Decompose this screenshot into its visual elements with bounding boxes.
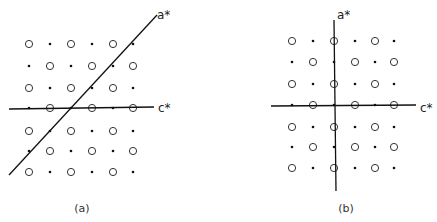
open-circle-spot (371, 80, 378, 87)
dot-spot (91, 171, 94, 174)
dot-spot (393, 83, 396, 86)
dot-spot (91, 43, 94, 46)
open-circle-spot (25, 127, 32, 134)
dot-spot (393, 126, 396, 129)
dot-spot (112, 150, 115, 153)
cstar-label-b: c* (420, 101, 433, 115)
astar-label-b: a* (337, 8, 350, 22)
open-circle-spot (330, 164, 337, 171)
dot-spot (393, 40, 396, 43)
dot-spot (49, 87, 52, 90)
dot-spot (132, 130, 135, 133)
open-circle-spot (46, 147, 53, 154)
open-circle-spot (390, 143, 397, 150)
open-circle-spot (309, 143, 316, 150)
open-circle-spot (371, 123, 378, 130)
dot-spot (354, 167, 357, 170)
open-circle-spot (351, 58, 358, 65)
dot-spot (354, 126, 357, 129)
dot-spot (291, 146, 294, 149)
open-circle-spot (351, 143, 358, 150)
cstar-label-a: c* (158, 101, 171, 115)
dot-spot (28, 65, 31, 68)
open-circle-spot (88, 147, 95, 154)
dot-spot (112, 65, 115, 68)
dot-spot (49, 43, 52, 46)
cstar-axis-a (9, 107, 154, 109)
open-circle-spot (390, 58, 397, 65)
caption-b: (b) (338, 202, 354, 215)
open-circle-spot (288, 123, 295, 130)
open-circle-spot (109, 84, 116, 91)
open-circle-spot (109, 168, 116, 175)
open-circle-spot (129, 147, 136, 154)
caption-a: (a) (74, 202, 89, 215)
open-circle-spot (67, 40, 74, 47)
open-circle-spot (25, 168, 32, 175)
dot-spot (354, 83, 357, 86)
dot-spot (374, 146, 377, 149)
open-circle-spot (330, 80, 337, 87)
open-circle-spot (288, 37, 295, 44)
dot-spot (291, 61, 294, 64)
dot-spot (354, 40, 357, 43)
open-circle-spot (88, 62, 95, 69)
lattice-points-b (288, 37, 397, 171)
dot-spot (132, 87, 135, 90)
dot-spot (312, 167, 315, 170)
astar-label-a: a* (157, 8, 170, 22)
panel-a: a* c* (a) (9, 8, 171, 215)
open-circle-spot (109, 40, 116, 47)
dot-spot (312, 83, 315, 86)
dot-spot (393, 167, 396, 170)
panel-b: a* c* (b) (271, 8, 433, 215)
open-circle-spot (25, 40, 32, 47)
open-circle-spot (371, 37, 378, 44)
dot-spot (374, 61, 377, 64)
open-circle-spot (309, 58, 316, 65)
dot-spot (132, 171, 135, 174)
open-circle-spot (67, 127, 74, 134)
open-circle-spot (109, 127, 116, 134)
dot-spot (70, 150, 73, 153)
open-circle-spot (371, 164, 378, 171)
open-circle-spot (288, 164, 295, 171)
dot-spot (49, 171, 52, 174)
open-circle-spot (25, 84, 32, 91)
dot-spot (70, 65, 73, 68)
open-circle-spot (67, 84, 74, 91)
open-circle-spot (46, 62, 53, 69)
dot-spot (312, 40, 315, 43)
open-circle-spot (330, 123, 337, 130)
dot-spot (91, 130, 94, 133)
open-circle-spot (129, 104, 136, 111)
open-circle-spot (288, 80, 295, 87)
open-circle-spot (309, 101, 316, 108)
reciprocal-lattice-figure: a* c* (a) a* c* (b) (0, 0, 437, 222)
dot-spot (312, 126, 315, 129)
open-circle-spot (129, 62, 136, 69)
open-circle-spot (67, 168, 74, 175)
astar-axis-a (9, 15, 157, 175)
dot-spot (132, 43, 135, 46)
